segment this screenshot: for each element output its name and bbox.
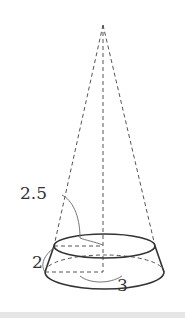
label-slant-height: 2 [32,252,43,272]
right-slant-edge [155,246,164,272]
cone-extension-lines [54,25,155,272]
bottom-radius-brace [80,276,122,282]
frustum-diagram: 2.5 2 3 [0,0,185,318]
bottom-divider-bar [0,312,185,318]
bottom-ellipse-front [45,272,164,289]
left-slant-edge [45,246,54,272]
label-top-radius: 2.5 [20,183,47,203]
label-bottom-radius: 3 [117,275,128,295]
